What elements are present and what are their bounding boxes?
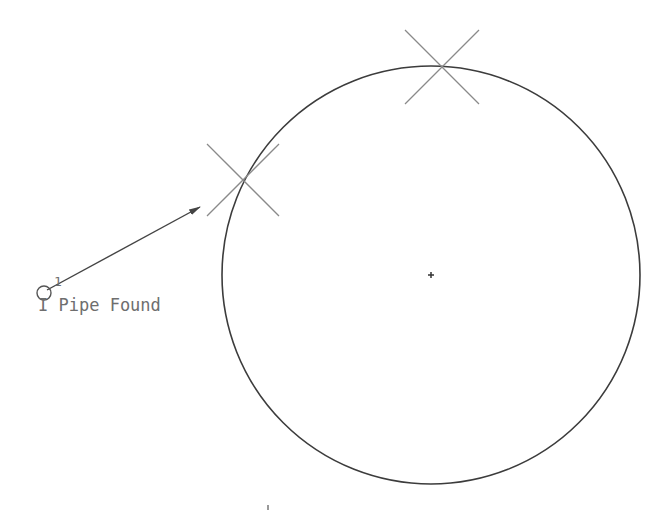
cross-markers <box>207 30 479 216</box>
x-marker-left-icon <box>207 144 279 216</box>
center-crosshair-icon <box>428 272 434 278</box>
point-number-label: 1 <box>54 274 62 289</box>
leader-arrow[interactable] <box>47 207 200 290</box>
point-description-label: I Pipe Found <box>38 295 161 315</box>
cad-drawing-canvas: 1 I Pipe Found <box>0 0 668 512</box>
